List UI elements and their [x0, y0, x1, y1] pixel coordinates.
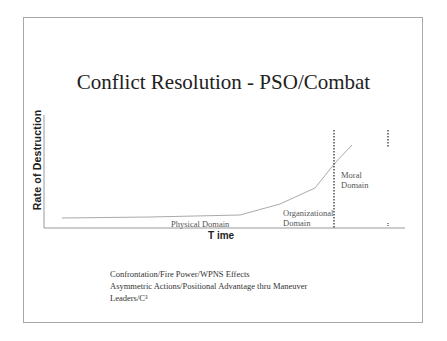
- moral-domain-label: Moral Domain: [341, 170, 368, 190]
- notes-list: Confrontation/Fire Power/WPNS Effects As…: [110, 268, 307, 304]
- note-item: Leaders/C³: [110, 292, 307, 304]
- x-axis-label: T ime: [208, 230, 234, 241]
- organizational-domain-line1: Organizational: [283, 208, 333, 218]
- note-item: Confrontation/Fire Power/WPNS Effects: [110, 268, 307, 280]
- note-item: Asymmetric Actions/Positional Advantage …: [110, 280, 307, 292]
- physical-domain-label: Physical Domain: [171, 219, 229, 229]
- y-axis-label: Rate of Destruction: [31, 110, 43, 211]
- physical-domain-text: Physical Domain: [171, 219, 229, 229]
- organizational-domain-label: Organizational Domain: [283, 208, 333, 228]
- organizational-domain-line2: Domain: [283, 218, 333, 228]
- moral-domain-line2: Domain: [341, 180, 368, 190]
- moral-domain-line1: Moral: [341, 170, 368, 180]
